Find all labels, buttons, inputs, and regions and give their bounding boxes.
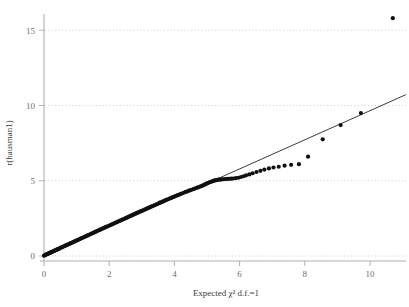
data-point <box>321 137 325 141</box>
data-point <box>262 168 266 172</box>
data-point <box>391 16 395 20</box>
data-point <box>267 166 271 170</box>
y-tick-label: 0 <box>31 251 36 261</box>
y-tick-label: 5 <box>31 176 36 186</box>
data-point <box>254 170 258 174</box>
y-tick-label: 10 <box>26 101 36 111</box>
data-point <box>359 111 363 115</box>
data-point <box>271 165 275 169</box>
data-point <box>277 165 281 169</box>
x-tick-label: 10 <box>366 269 376 279</box>
x-tick-label: 2 <box>107 269 112 279</box>
plot-canvas: 0246810 051015 Expected χ² d.f.=1 r(haus… <box>0 0 409 307</box>
data-point <box>251 171 255 175</box>
y-tick-label: 15 <box>26 26 36 36</box>
data-point <box>306 155 310 159</box>
x-tick-label: 0 <box>42 269 47 279</box>
y-tick-group: 051015 <box>26 26 44 262</box>
axis-lines-group <box>40 14 406 261</box>
data-point <box>282 164 286 168</box>
y-axis-label: r(hausman1) <box>4 120 14 165</box>
data-point <box>297 162 301 166</box>
x-tick-label: 4 <box>172 269 177 279</box>
x-tick-group: 0246810 <box>42 261 375 279</box>
qq-plot-figure: 0246810 051015 Expected χ² d.f.=1 r(haus… <box>0 0 409 307</box>
gridlines-group <box>45 30 406 256</box>
x-tick-label: 8 <box>303 269 308 279</box>
x-axis-label: Expected χ² d.f.=1 <box>193 288 259 298</box>
data-point <box>258 169 262 173</box>
x-tick-label: 6 <box>237 269 242 279</box>
data-points-group <box>42 16 395 258</box>
data-point <box>289 163 293 167</box>
data-point <box>339 123 343 127</box>
